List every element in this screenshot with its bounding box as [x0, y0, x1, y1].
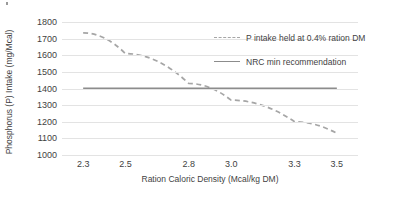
chart-container: Phosphorus (P) Intake (mg/Mcal) 18001700… [0, 0, 402, 201]
gridline [62, 138, 358, 139]
x-axis-tick-label: 3.5 [317, 158, 357, 170]
legend-item-p-intake: P intake held at 0.4% ration DM [214, 26, 402, 50]
y-axis-tick-label: 1400 [20, 84, 57, 94]
x-axis-tick-label: 2.5 [105, 158, 145, 170]
x-axis-title: Ration Caloric Density (Mcal/kg DM) [62, 174, 358, 184]
gridline [62, 105, 358, 106]
y-axis-tick-label: 1700 [20, 34, 57, 44]
gridline [62, 155, 358, 156]
gridline [62, 89, 358, 90]
gridline [62, 22, 358, 23]
gridline [62, 122, 358, 123]
y-axis-title: Phosphorus (P) Intake (mg/Mcal) [2, 12, 16, 172]
x-axis-tick-labels: 2.32.52.83.03.33.5 [62, 158, 358, 172]
legend-label-p-intake: P intake held at 0.4% ration DM [246, 33, 365, 43]
x-axis-tick-label: 2.3 [63, 158, 103, 170]
legend-dashed-line-icon [214, 33, 240, 43]
legend-solid-line-icon [214, 57, 240, 67]
y-axis-tick-label: 1600 [20, 50, 57, 60]
y-axis-tick-label: 1800 [20, 17, 57, 27]
legend-item-nrc-min: NRC min recommendation [214, 50, 402, 74]
chart-legend: P intake held at 0.4% ration DM NRC min … [214, 26, 402, 74]
y-axis-tick-label: 1100 [20, 133, 57, 143]
y-axis-tick-label: 1300 [20, 100, 57, 110]
y-axis-tick-label: 1200 [20, 117, 57, 127]
y-axis-tick-label: 1000 [20, 150, 57, 160]
x-axis-tick-label: 3.3 [275, 158, 315, 170]
x-axis-tick-label: 2.8 [169, 158, 209, 170]
corner-artifact [6, 2, 8, 5]
legend-label-nrc-min: NRC min recommendation [246, 57, 346, 67]
y-axis-tick-labels: 180017001600150014001300120011001000 [20, 0, 57, 201]
x-axis-tick-label: 3.0 [211, 158, 251, 170]
y-axis-tick-label: 1500 [20, 67, 57, 77]
